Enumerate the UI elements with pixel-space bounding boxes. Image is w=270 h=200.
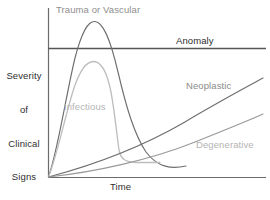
series-line-trauma-or-vascular [49,21,187,177]
y-axis-label-line-4: Signs [2,171,46,182]
series-label-anomaly: Anomaly [176,35,214,46]
series-label-infectious: Infectious [64,101,106,112]
series-label-trauma-or-vascular: Trauma or Vascular [56,4,140,15]
y-axis-label: Severity of Clinical Signs [2,48,46,200]
clinical-signs-chart: Severity of Clinical Signs Time Trauma o… [0,0,270,200]
series-label-neoplastic: Neoplastic [186,80,231,91]
y-axis-label-line-1: Severity [2,70,46,81]
x-axis-label: Time [110,181,131,192]
y-axis-label-line-3: Clinical [2,138,46,149]
series-label-degenerative: Degenerative [196,139,254,150]
y-axis-label-line-2: of [2,104,46,115]
